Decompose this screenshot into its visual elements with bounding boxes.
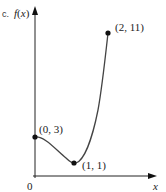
origin-label: 0 xyxy=(27,180,33,192)
point-1-1 xyxy=(71,160,76,165)
function-graph: c. f(x) x 0 (0, 3) (1, 1) (2, 11) xyxy=(0,0,166,192)
point-2-11 xyxy=(105,30,110,35)
point-label-2-11: (2, 11) xyxy=(115,21,144,34)
x-axis-arrow-icon xyxy=(148,173,157,179)
x-axis-label: x xyxy=(152,180,158,192)
y-axis-label: f(x) xyxy=(14,7,30,20)
y-axis-arrow-icon xyxy=(32,6,38,15)
point-0-3 xyxy=(32,134,37,139)
point-label-0-3: (0, 3) xyxy=(39,123,63,136)
point-label-1-1: (1, 1) xyxy=(82,159,106,172)
part-label: c. xyxy=(2,9,9,19)
function-curve xyxy=(35,33,108,163)
